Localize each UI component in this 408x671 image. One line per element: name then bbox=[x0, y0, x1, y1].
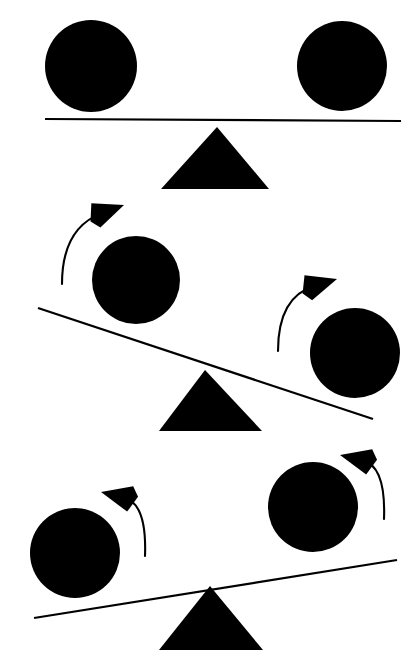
circle-middle-left bbox=[92, 236, 180, 324]
circle-top-right bbox=[297, 21, 387, 111]
circle-bottom-right bbox=[268, 462, 358, 552]
circle-top-left bbox=[45, 20, 137, 112]
figure-root: Balance scale sequence diagram Three sta… bbox=[0, 0, 408, 671]
circle-middle-right bbox=[310, 308, 400, 398]
balance-scale-figure: Balance scale sequence diagram Three sta… bbox=[0, 0, 408, 671]
circle-bottom-left bbox=[30, 508, 120, 598]
